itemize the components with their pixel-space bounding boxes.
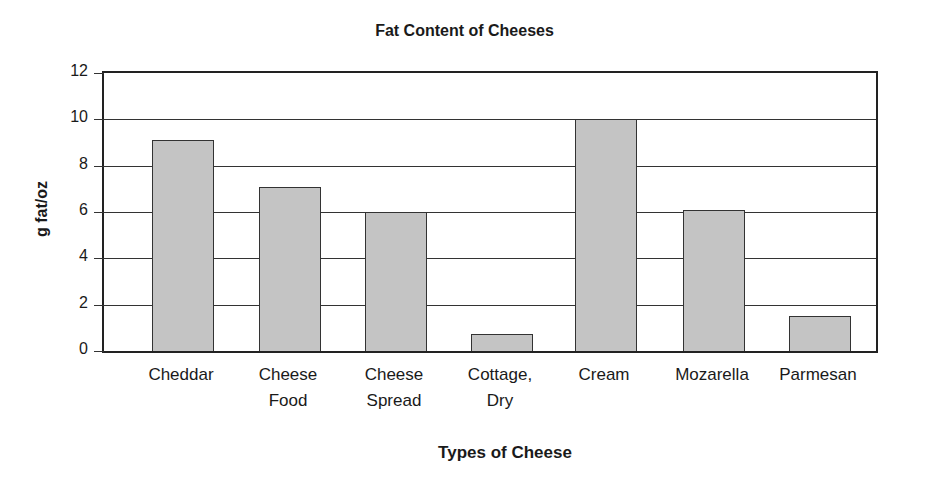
y-tick-label: 2 — [56, 294, 88, 312]
x-category-label: Cheese Food — [233, 362, 343, 414]
y-tick — [94, 212, 104, 213]
y-tick — [94, 166, 104, 167]
bar — [471, 334, 533, 351]
gridline — [104, 166, 876, 167]
x-axis-label: Types of Cheese — [0, 443, 929, 463]
bar — [789, 316, 851, 351]
y-tick-label: 10 — [56, 108, 88, 126]
x-category-label: Cottage, Dry — [445, 362, 555, 414]
y-tick — [94, 351, 104, 352]
y-tick — [94, 258, 104, 259]
y-tick-label: 4 — [56, 247, 88, 265]
bar — [575, 119, 637, 351]
bar — [259, 187, 321, 351]
bar — [683, 210, 745, 351]
y-tick-label: 0 — [56, 340, 88, 358]
x-category-label: Parmesan — [763, 362, 873, 388]
gridline — [104, 258, 876, 259]
y-tick — [94, 305, 104, 306]
bar — [152, 140, 214, 351]
x-category-label: Cheese Spread — [339, 362, 449, 414]
y-axis-label: g fat/oz — [33, 159, 51, 259]
chart-title: Fat Content of Cheeses — [0, 22, 929, 40]
y-tick-label: 8 — [56, 155, 88, 173]
gridline — [104, 119, 876, 120]
x-category-label: Cheddar — [126, 362, 236, 388]
x-category-label: Mozarella — [657, 362, 767, 388]
y-tick — [94, 119, 104, 120]
plot-area: 024681012 — [102, 71, 878, 353]
y-tick — [94, 73, 104, 74]
gridline — [104, 305, 876, 306]
y-tick-label: 12 — [56, 62, 88, 80]
bar — [365, 212, 427, 351]
gridline — [104, 212, 876, 213]
y-tick-label: 6 — [56, 201, 88, 219]
x-category-label: Cream — [549, 362, 659, 388]
